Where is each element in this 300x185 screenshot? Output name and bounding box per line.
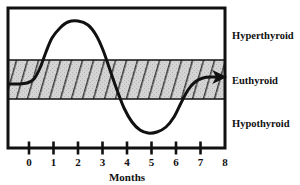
x-tick-label-5: 5 xyxy=(149,156,155,168)
x-tick-label-3: 3 xyxy=(100,156,106,168)
x-axis-tick-labels: 0 1 2 3 4 5 6 7 8 xyxy=(26,156,228,168)
x-tick-label-7: 7 xyxy=(198,156,204,168)
chart-canvas: 0 1 2 3 4 5 6 7 8 Months Hyperthyroid Eu… xyxy=(0,0,300,185)
x-tick-label-2: 2 xyxy=(75,156,81,168)
x-tick-label-8: 8 xyxy=(222,156,228,168)
x-axis-title: Months xyxy=(109,171,146,183)
x-tick-label-6: 6 xyxy=(173,156,179,168)
zone-labels: Hyperthyroid Euthyroid Hypothyroid xyxy=(232,30,294,129)
x-tick-label-1: 1 xyxy=(51,156,57,168)
x-tick-label-0: 0 xyxy=(26,156,32,168)
zone-label-euthyroid: Euthyroid xyxy=(232,75,278,86)
zone-label-hypothyroid: Hypothyroid xyxy=(232,118,290,129)
zone-label-hyperthyroid: Hyperthyroid xyxy=(232,30,294,41)
thyroid-status-chart: 0 1 2 3 4 5 6 7 8 Months Hyperthyroid Eu… xyxy=(0,0,300,185)
x-tick-label-4: 4 xyxy=(124,156,130,168)
